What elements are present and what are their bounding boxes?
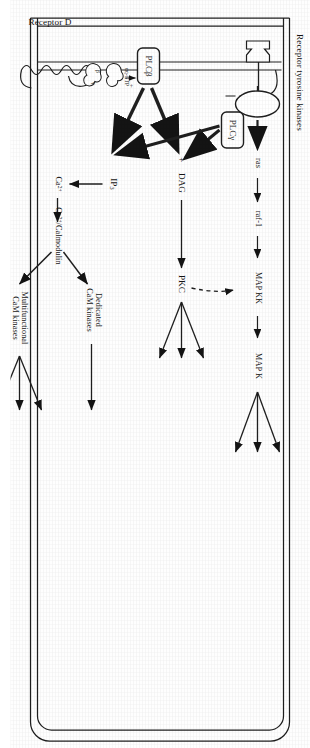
ras-label: ras: [253, 158, 261, 168]
g-beta-label-1: β: [94, 70, 100, 73]
diagram-canvas: Receptor tyrosine kinases Receptor D Rec…: [11, 0, 300, 748]
map-k-label: MAP K: [253, 353, 261, 379]
plus-sign-plcbeta: +: [127, 84, 134, 88]
dedicated-cam-kinases-line2: CaM kinases: [86, 288, 95, 332]
raf1-label: raf-1: [253, 211, 261, 227]
pkc-label: PKC: [177, 275, 186, 293]
receptor-d-label: Receptor D: [28, 18, 71, 27]
figure-stage: Receptor tyrosine kinases Receptor D Rec…: [11, 0, 300, 748]
calcium-calmodulin-label: Ca2+/Calmodulin: [53, 207, 62, 264]
plc-beta-label: PLCβ: [144, 55, 154, 76]
multifunctional-cam-kinases-line1: Multifunctional: [20, 292, 29, 345]
dag-label: DAG: [177, 173, 186, 193]
dedicated-cam-kinases-line1: Dedicated: [94, 293, 103, 327]
multifunctional-cam-kinases-label: Multifunctional CaM kinases: [11, 292, 28, 345]
receptor-tyrosine-kinases-label: Receptor tyrosine kinases: [294, 34, 299, 131]
multifunctional-cam-kinases-line2: CaM kinases: [12, 296, 21, 340]
calcium-label: Ca2+: [53, 176, 62, 191]
g-protein-q: [104, 62, 124, 87]
dedicated-cam-kinases-label: Dedicated CaM kinases: [85, 288, 102, 332]
map-kk-label: MAP KK: [253, 272, 261, 304]
receptor-d-glyph: [21, 66, 93, 89]
ip3-label: IP3: [109, 178, 119, 190]
plc-gamma-label: PLCγ: [228, 120, 238, 140]
plus-label-ip3-dag: +: [177, 157, 186, 162]
g-gamma-label-1: γ: [90, 82, 96, 84]
